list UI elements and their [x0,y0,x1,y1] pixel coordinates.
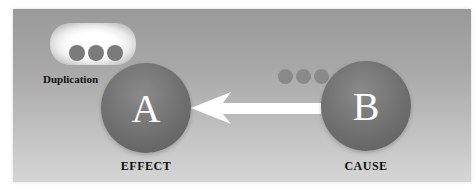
dot-icon [278,69,293,84]
duplication-dots [69,45,123,61]
diagram-panel: Duplication A B EFFECT CAUSE [13,9,471,182]
dot-icon [88,45,104,61]
node-a-letter: A [132,85,161,132]
dot-icon [296,69,311,84]
node-b-letter: B [353,83,380,130]
duplication-label: Duplication [43,73,98,85]
effect-caption: EFFECT [96,159,196,174]
node-a-effect: A [101,63,191,153]
node-b-cause: B [321,61,411,151]
dot-icon [107,45,123,61]
transfer-dots [278,69,329,84]
dot-icon [69,45,85,61]
cause-caption: CAUSE [316,159,416,174]
arrow-left-icon [191,92,321,124]
